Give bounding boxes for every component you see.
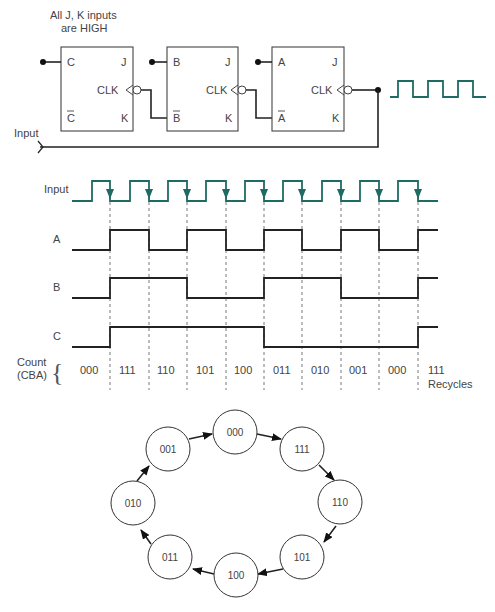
count-sublabel: (CBA) <box>17 369 47 381</box>
count-value: 011 <box>273 364 291 376</box>
state-node-110: 110 <box>318 480 362 524</box>
count-value: 010 <box>311 364 329 376</box>
inversion-bubble-icon <box>344 86 352 94</box>
count-value: 111 <box>428 364 445 376</box>
terminal-dot-icon <box>149 59 155 65</box>
signal-label-input: Input <box>44 183 68 195</box>
timing-diagram: Input A B C Count (CBA) { 000 11 <box>17 181 473 390</box>
waveform-c <box>72 327 438 347</box>
state-label: 110 <box>332 497 348 508</box>
recycles-label: Recycles <box>428 378 473 390</box>
brace-icon: { <box>51 358 63 387</box>
state-node-011: 011 <box>148 535 192 579</box>
input-label: Input <box>14 127 38 139</box>
flip-flop-c: C C J K CLK <box>40 47 141 131</box>
waveform-a <box>72 230 438 250</box>
down-counter-diagram: All J, K inputs are HIGH C C J K CLK B B <box>0 0 495 612</box>
k-label-c: K <box>121 112 129 124</box>
waveform-b <box>72 278 438 298</box>
state-label: 111 <box>294 444 310 455</box>
count-value: 000 <box>80 364 98 376</box>
k-label-b: K <box>225 112 233 124</box>
state-label: 001 <box>160 444 177 455</box>
signal-label-b: B <box>53 281 60 293</box>
q-label-c: C <box>67 56 75 68</box>
qbar-label-a: A <box>278 112 286 124</box>
state-label: 101 <box>294 552 311 563</box>
falling-edge-arrows <box>106 189 422 199</box>
state-diagram: 000 111 110 101 100 011 010 001 <box>111 410 362 597</box>
count-value: 111 <box>119 364 136 376</box>
terminal-dot-icon <box>40 59 46 65</box>
state-label: 010 <box>125 498 142 509</box>
q-label-a: A <box>278 56 286 68</box>
k-label-a: K <box>332 112 340 124</box>
state-node-010: 010 <box>111 481 155 525</box>
state-label: 000 <box>227 427 244 438</box>
state-node-111: 111 <box>280 427 324 471</box>
count-value: 100 <box>234 364 252 376</box>
clock-waveform-icon <box>390 81 486 97</box>
note-line-1: All J, K inputs <box>50 9 117 21</box>
inversion-bubble-icon <box>238 86 246 94</box>
signal-label-c: C <box>53 330 61 342</box>
state-node-101: 101 <box>280 535 324 579</box>
clk-label-b: CLK <box>206 84 228 96</box>
terminal-dot-icon <box>255 59 261 65</box>
count-label: Count <box>17 356 46 368</box>
count-value: 000 <box>388 364 406 376</box>
count-value: 101 <box>196 364 214 376</box>
inversion-bubble-icon <box>133 86 141 94</box>
j-label-a: J <box>332 56 338 68</box>
count-value: 110 <box>157 364 175 376</box>
clk-label-a: CLK <box>311 84 333 96</box>
count-values: 000 111 110 101 100 011 010 001 000 111 <box>80 364 445 376</box>
signal-label-a: A <box>53 233 61 245</box>
qbar-label-b: B <box>173 112 180 124</box>
state-label: 011 <box>162 552 178 563</box>
state-node-000: 000 <box>213 410 257 454</box>
input-clock-waveform <box>72 181 438 201</box>
state-node-001: 001 <box>146 427 190 471</box>
state-label: 100 <box>228 570 245 581</box>
clk-label-c: CLK <box>97 84 119 96</box>
j-label-c: J <box>121 56 127 68</box>
state-node-100: 100 <box>214 553 258 597</box>
j-label-b: J <box>225 56 231 68</box>
qbar-label-c: C <box>67 112 75 124</box>
circuit-schematic: All J, K inputs are HIGH C C J K CLK B B <box>14 9 486 153</box>
count-value: 001 <box>349 364 367 376</box>
note-line-2: are HIGH <box>61 22 108 34</box>
q-label-b: B <box>173 56 180 68</box>
